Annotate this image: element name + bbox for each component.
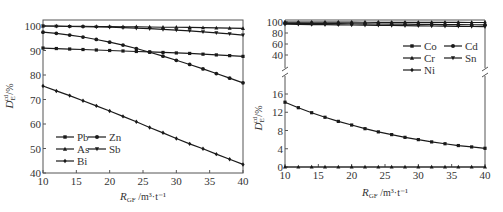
chart-canvas: 10152025303540405060708090100PbZnAsSbBiR…: [0, 0, 503, 212]
x-tick-label: 35: [446, 169, 458, 181]
data-point-marker-icon: [94, 38, 98, 42]
x-tick-label: 30: [171, 175, 183, 187]
data-point-marker-icon: [377, 130, 380, 133]
data-point-marker-icon: [201, 67, 205, 71]
data-point-marker-icon: [241, 55, 244, 58]
data-point-marker-icon: [68, 33, 72, 37]
data-point-marker-icon: [95, 48, 98, 51]
data-point-marker-icon: [241, 81, 245, 85]
series-line: [285, 102, 485, 148]
left-chart-panel: 10152025303540405060708090100PbZnAsSbBiR…: [2, 20, 249, 204]
data-point-marker-icon: [228, 76, 232, 80]
data-point-marker-icon: [214, 72, 218, 76]
x-axis-label: RGF /m³·t⁻¹: [119, 190, 166, 204]
legend-label: Sb: [109, 143, 121, 155]
data-point-marker-icon: [41, 84, 44, 88]
data-point-marker-icon: [215, 53, 218, 56]
data-point-marker-icon: [55, 47, 58, 50]
x-tick-label: 25: [380, 169, 392, 181]
series-bi: [41, 84, 244, 167]
x-tick-label: 15: [71, 175, 83, 187]
data-point-marker-icon: [161, 131, 164, 135]
data-point-marker-icon: [54, 31, 58, 35]
data-point-marker-icon: [81, 48, 84, 51]
y-tick-label: 80: [30, 69, 42, 81]
legend-marker-icon: [63, 135, 66, 138]
y-tick-label: 80: [272, 27, 284, 39]
data-point-marker-icon: [175, 51, 178, 54]
y-tick-label: 60: [272, 38, 284, 50]
y-tick-label: 70: [30, 94, 42, 106]
x-tick-label: 25: [138, 175, 150, 187]
data-point-marker-icon: [430, 140, 433, 143]
y-tick-label: 4: [278, 143, 284, 155]
data-point-marker-icon: [201, 147, 204, 151]
data-point-marker-icon: [121, 43, 125, 47]
x-tick-label: 20: [104, 175, 116, 187]
legend-label: Cr: [424, 52, 435, 64]
data-point-marker-icon: [68, 93, 71, 97]
data-point-marker-icon: [188, 52, 191, 55]
data-point-marker-icon: [134, 47, 138, 51]
series-co: [283, 101, 486, 150]
x-tick-label: 20: [346, 169, 358, 181]
y-tick-label: 16: [272, 88, 284, 100]
data-point-marker-icon: [161, 51, 164, 54]
y-tick-label: 100: [267, 16, 284, 28]
data-point-marker-icon: [108, 40, 112, 44]
data-point-marker-icon: [310, 111, 313, 114]
legend-label: Zn: [109, 131, 122, 143]
y-tick-label: 50: [30, 143, 42, 155]
y-tick-label: 40: [272, 49, 284, 61]
data-point-marker-icon: [241, 162, 244, 166]
series-line: [43, 32, 243, 83]
data-point-marker-icon: [81, 35, 85, 39]
right-chart-panel: 101520253035404060801000481216CoCdCrSnNi…: [251, 16, 491, 200]
data-point-marker-icon: [68, 47, 71, 50]
legend-marker-icon: [410, 68, 413, 73]
data-point-marker-icon: [417, 138, 420, 141]
data-point-marker-icon: [337, 120, 340, 123]
x-tick-label: 35: [204, 175, 216, 187]
data-point-marker-icon: [443, 142, 446, 145]
data-point-marker-icon: [188, 142, 191, 146]
y-tick-label: 12: [272, 106, 283, 118]
data-point-marker-icon: [363, 127, 366, 130]
data-point-marker-icon: [350, 123, 353, 126]
data-point-marker-icon: [148, 125, 151, 129]
x-tick-label: 15: [313, 169, 325, 181]
y-tick-label: 90: [30, 45, 42, 57]
legend-marker-icon: [63, 159, 66, 164]
legend-marker-icon: [451, 44, 455, 48]
y-axis-label: DEcd/%: [251, 106, 266, 132]
y-axis-label: DEcd/%: [2, 84, 17, 110]
legend-label: Cd: [465, 40, 478, 52]
data-point-marker-icon: [403, 136, 406, 139]
data-point-marker-icon: [121, 49, 124, 52]
data-point-marker-icon: [188, 63, 192, 67]
data-point-marker-icon: [55, 89, 58, 93]
legend-label: Ni: [424, 64, 435, 76]
data-point-marker-icon: [390, 133, 393, 136]
legend-label: Co: [424, 40, 437, 52]
legend-label: Bi: [77, 155, 87, 167]
data-point-marker-icon: [175, 136, 178, 140]
series-line: [43, 86, 243, 164]
x-axis-label: RGF /m³·t⁻¹: [361, 186, 408, 200]
legend: PbZnAsSbBi: [56, 131, 122, 167]
x-tick-label: 40: [238, 175, 250, 187]
y-tick-label: 60: [30, 118, 42, 130]
data-point-marker-icon: [148, 50, 152, 54]
figure: 10152025303540405060708090100PbZnAsSbBiR…: [0, 0, 503, 212]
data-point-marker-icon: [483, 147, 486, 150]
legend-marker-icon: [95, 135, 99, 139]
data-point-marker-icon: [121, 114, 124, 118]
legend-label: Pb: [77, 131, 89, 143]
series-pb: [41, 46, 244, 58]
data-point-marker-icon: [108, 49, 111, 52]
data-point-marker-icon: [228, 54, 231, 57]
series-zn: [41, 30, 245, 85]
legend: CoCdCrSnNi: [403, 40, 478, 76]
data-point-marker-icon: [470, 145, 473, 148]
y-tick-label: 100: [25, 20, 42, 32]
